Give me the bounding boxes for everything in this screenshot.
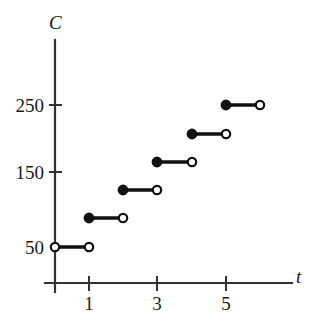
step-5-right-endpoint-open bbox=[222, 130, 230, 138]
x-tick-label-3: 3 bbox=[142, 294, 172, 313]
step-function-chart: C t 250 150 50 1 3 5 bbox=[0, 0, 314, 324]
step-1-right-endpoint-open bbox=[85, 243, 93, 251]
step-4-right-endpoint-open bbox=[188, 158, 196, 166]
step-3-left-endpoint-closed bbox=[118, 185, 127, 194]
x-axis-label: t bbox=[296, 267, 301, 286]
step-6-right-endpoint-open bbox=[256, 101, 264, 109]
x-tick-label-1: 1 bbox=[74, 294, 104, 313]
step-3-right-endpoint-open bbox=[153, 186, 161, 194]
step-2-left-endpoint-closed bbox=[84, 213, 93, 222]
y-axis-label: C bbox=[49, 13, 62, 32]
step-4-left-endpoint-closed bbox=[152, 157, 161, 166]
chart-plot-area bbox=[0, 0, 314, 324]
x-tick-label-5: 5 bbox=[211, 294, 241, 313]
y-tick-label-250: 250 bbox=[0, 96, 44, 115]
y-tick-label-150: 150 bbox=[0, 163, 44, 182]
step-2-right-endpoint-open bbox=[119, 214, 127, 222]
y-tick-label-50: 50 bbox=[0, 238, 44, 257]
step-1-left-endpoint-open bbox=[51, 243, 59, 251]
step-6-left-endpoint-closed bbox=[221, 100, 230, 109]
step-5-left-endpoint-closed bbox=[187, 129, 196, 138]
